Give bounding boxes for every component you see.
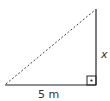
hypotenuse-dashed-line [6,10,95,84]
base-label: 5 m [38,88,59,101]
right-angle-dot [90,79,92,81]
height-label: x [100,48,108,61]
triangle-diagram: x 5 m [0,0,110,101]
